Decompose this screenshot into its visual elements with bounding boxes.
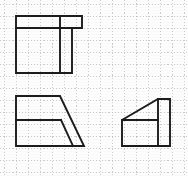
shape-layer [0,0,188,176]
top-view-drawing [16,16,82,73]
front-view-outline [16,96,84,146]
front-view-inner-lines [16,120,73,146]
top-view-outline [16,16,82,73]
views-svg [0,0,188,176]
side-view-drawing [122,99,170,146]
side-view-inner-lines [122,99,158,146]
side-view-outline [122,99,170,146]
front-view-inner-line [61,120,73,146]
top-view-inner-lines [16,16,72,73]
worksheet-sheet [0,0,188,176]
front-view-drawing [16,96,84,146]
